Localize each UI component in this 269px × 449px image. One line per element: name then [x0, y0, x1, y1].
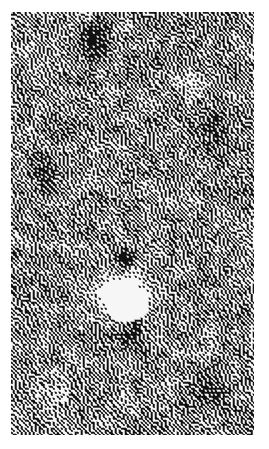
dithered-grayscale-field — [11, 12, 254, 435]
image-plate-container — [11, 12, 254, 435]
screenshot-root: Coarsely dithered black-and-white halfto… — [0, 0, 269, 449]
